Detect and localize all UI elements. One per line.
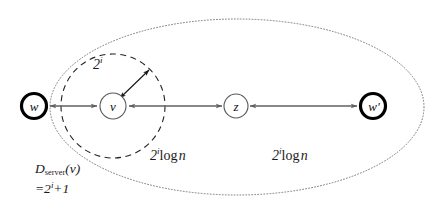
server-demand-equals: =2 [35, 181, 51, 196]
node-label-wprime: w' [368, 100, 379, 113]
node-label-v: v [110, 100, 116, 113]
left-span-base: 2 [150, 148, 157, 163]
right-span-base: 2 [272, 148, 279, 163]
server-demand-subscript: server [45, 168, 65, 177]
node-label-w: w [30, 100, 39, 113]
radius-arrow [120, 70, 149, 98]
right-span-log: log [282, 148, 300, 163]
right-span-label: 2ilog n [272, 147, 308, 165]
server-demand-plus-one: +1 [53, 181, 69, 196]
left-span-variable: n [179, 148, 186, 163]
server-demand-label: Dserver(v)=2i+1 [35, 161, 80, 198]
radius-base: 2 [93, 57, 100, 72]
server-demand-argument: (v) [65, 161, 80, 176]
left-span-label: 2ilog n [150, 147, 186, 165]
radius-exponent: i [100, 55, 103, 65]
radius-label: 2i [93, 56, 103, 74]
node-label-z: z [233, 100, 238, 113]
diagram-canvas: w v z w' 2i 2ilog n 2ilog n Dserver(v)=2… [0, 0, 441, 217]
right-span-variable: n [301, 148, 308, 163]
server-demand-name: D [35, 161, 45, 176]
left-span-log: log [160, 148, 178, 163]
